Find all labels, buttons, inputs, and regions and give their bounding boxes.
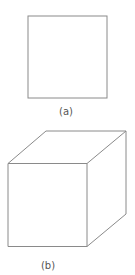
- panel-a-square: [28, 16, 107, 98]
- cube-right-face: [87, 131, 126, 247]
- panel-b-cube: [8, 131, 126, 247]
- square-outline: [28, 16, 107, 98]
- figure-canvas: [0, 0, 135, 275]
- cube-top-face: [8, 131, 126, 164]
- cube-front-face: [8, 164, 87, 247]
- caption-a: (a): [59, 107, 73, 117]
- caption-b: (b): [41, 261, 55, 271]
